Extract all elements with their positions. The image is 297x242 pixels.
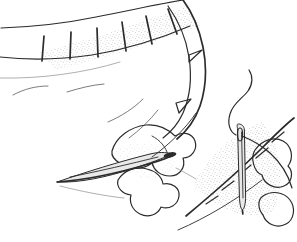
suture-stitch [70, 32, 71, 59]
surgical-illustration [0, 0, 297, 242]
suture-stitch [97, 28, 98, 57]
illustration-canvas: Surgical suturing technique illustration… [0, 0, 297, 242]
